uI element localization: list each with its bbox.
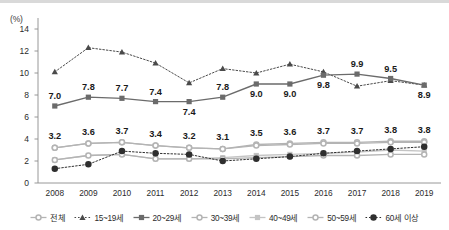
x-tick-label: 2011 <box>147 188 165 198</box>
y-tick-label: 14 <box>20 24 30 34</box>
data-point-marker <box>86 162 91 167</box>
data-point-marker <box>254 156 259 161</box>
legend-marker-icon <box>133 213 150 222</box>
data-label-top: 7.8 <box>82 82 95 92</box>
data-label-top: 7.0 <box>48 91 61 101</box>
data-point-marker <box>119 96 124 101</box>
data-point-marker <box>197 215 202 220</box>
data-label-bottom: 3.5 <box>250 128 263 138</box>
x-tick-label: 2012 <box>180 188 199 198</box>
data-label-top: 9.9 <box>351 59 364 69</box>
data-point-marker <box>388 140 393 145</box>
data-label-top: 9.5 <box>384 64 397 74</box>
series-lines <box>55 48 424 169</box>
legend-item[interactable]: 15~19세 <box>74 211 123 223</box>
y-tick-label: 10 <box>20 68 30 78</box>
data-label-top: 9.8 <box>317 80 330 90</box>
data-label-top: 8.9 <box>418 90 431 100</box>
data-label-top: 7.4 <box>149 87 163 97</box>
data-point-marker <box>86 141 91 146</box>
y-tick-label: 6 <box>24 112 29 122</box>
data-point-marker <box>321 151 326 156</box>
data-label-bottom: 3.2 <box>48 131 61 141</box>
data-point-marker <box>220 159 225 164</box>
legend-item-label: 30~39세 <box>211 211 240 223</box>
data-point-marker <box>422 83 427 88</box>
data-point-marker <box>254 143 259 148</box>
data-point-marker <box>220 95 225 100</box>
legend-item[interactable]: 20~29세 <box>133 211 182 223</box>
legend-item-label: 15~19세 <box>94 211 123 223</box>
data-point-marker <box>52 69 58 75</box>
legend-item[interactable]: 50~59세 <box>307 211 356 223</box>
data-point-marker <box>422 144 427 149</box>
data-label-bottom: 3.6 <box>82 127 95 137</box>
data-point-marker <box>119 140 124 145</box>
data-label-bottom: 3.4 <box>149 129 163 139</box>
data-point-marker <box>371 215 376 220</box>
x-tick-label: 2017 <box>348 188 367 198</box>
x-tick-label: 2013 <box>213 188 232 198</box>
data-point-marker <box>287 142 292 147</box>
x-tick-label: 2009 <box>79 188 98 198</box>
x-tick-label: 2015 <box>281 188 300 198</box>
legend-item[interactable]: 전체 <box>30 211 65 223</box>
data-point-marker <box>187 152 192 157</box>
data-point-marker <box>255 214 260 219</box>
chart-container: (%) 02468101214 200820092010201120122013… <box>0 0 449 230</box>
data-point-marker <box>52 145 57 150</box>
data-point-marker <box>52 166 57 171</box>
x-tick-label: 2016 <box>314 188 333 198</box>
data-point-marker <box>422 152 427 157</box>
data-point-marker <box>153 143 158 148</box>
data-point-marker <box>187 99 192 104</box>
data-label-top: 7.7 <box>116 83 129 93</box>
data-point-marker <box>153 99 158 104</box>
series-line <box>55 142 424 149</box>
data-label-bottom: 3.8 <box>384 125 397 135</box>
legend-marker-icon <box>191 213 208 222</box>
x-tick-label: 2008 <box>46 188 65 198</box>
x-tick-label: 2018 <box>381 188 400 198</box>
legend-item-label: 전체 <box>50 211 65 223</box>
legend-item-label: 60세 이상 <box>385 211 419 223</box>
data-point-marker <box>220 146 225 151</box>
legend-item-label: 50~59세 <box>327 211 356 223</box>
y-tick-label: 0 <box>24 178 29 188</box>
series-line <box>55 48 424 86</box>
legend-item-label: 40~49세 <box>269 211 298 223</box>
legend-item[interactable]: 60세 이상 <box>365 211 419 223</box>
data-point-marker <box>354 83 360 89</box>
data-point-marker <box>388 146 393 151</box>
y-axis-line <box>35 18 39 183</box>
data-point-marker <box>388 76 393 81</box>
legend-marker-icon <box>365 213 382 222</box>
data-point-marker <box>153 156 158 161</box>
legend-marker-icon <box>74 213 91 222</box>
data-point-marker <box>86 153 91 158</box>
data-point-marker <box>254 81 259 86</box>
data-point-marker <box>313 215 318 220</box>
legend-item[interactable]: 40~49세 <box>249 211 298 223</box>
x-axis-tick-labels: 2008200920102011201220132014201520162017… <box>46 188 434 198</box>
line-chart-plot: 02468101214 2008200920102011201220132014… <box>0 0 449 230</box>
data-point-marker <box>287 81 292 86</box>
data-label-bottom: 3.8 <box>418 125 431 135</box>
y-axis-tick-labels: 02468101214 <box>20 24 30 188</box>
data-label-bottom: 3.7 <box>116 126 129 136</box>
data-point-marker <box>187 145 192 150</box>
data-point-marker <box>36 215 41 220</box>
data-point-marker <box>153 151 158 156</box>
data-point-marker <box>388 152 393 157</box>
data-label-bottom: 3.6 <box>283 127 296 137</box>
y-tick-label: 4 <box>24 134 29 144</box>
legend-marker-icon <box>30 213 47 222</box>
data-point-marker <box>52 157 57 162</box>
legend-marker-icon <box>307 213 324 222</box>
x-tick-label: 2014 <box>247 188 266 198</box>
data-point-marker <box>355 149 360 154</box>
data-label-bottom: 3.2 <box>183 131 196 141</box>
data-point-marker <box>85 45 91 51</box>
data-point-marker <box>186 80 192 86</box>
legend-item[interactable]: 30~39세 <box>191 211 240 223</box>
